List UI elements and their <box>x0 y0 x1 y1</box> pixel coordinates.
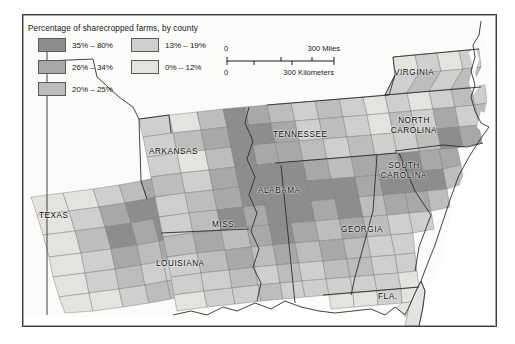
state-label-south-carolina-line2: CAROLINA <box>375 171 433 181</box>
legend-title: Percentage of sharecropped farms, by cou… <box>28 24 233 34</box>
state-label-north-carolina-line1: NORTH <box>385 116 443 126</box>
state-label-south-carolina: SOUTH CAROLINA <box>375 161 433 180</box>
state-label-georgia: GEORGIA <box>341 225 383 235</box>
state-tennessee-counties <box>267 95 397 163</box>
state-label-south-carolina-line1: SOUTH <box>375 161 433 171</box>
scale-bar-km-labels: 0 300 Kilometers <box>224 68 340 78</box>
legend-item-26-34: 26% – 34% <box>38 58 113 76</box>
legend-label-13-19: 13% – 19% <box>165 41 206 50</box>
legend-swatch-13-19 <box>131 38 159 52</box>
legend: Percentage of sharecropped farms, by cou… <box>28 24 233 104</box>
state-label-texas: TEXAS <box>39 211 69 221</box>
legend-item-0-12: 0% – 12% <box>131 58 206 76</box>
legend-swatch-35-80 <box>38 38 66 52</box>
legend-column-1: 35% – 80% 26% – 34% 20% – 25% <box>38 36 113 102</box>
legend-item-20-25: 20% – 25% <box>38 80 113 98</box>
scale-bar-km-zero: 0 <box>224 68 228 77</box>
state-label-florida: FLA. <box>378 292 398 302</box>
state-label-north-carolina-line2: CAROLINA <box>385 126 443 136</box>
legend-swatch-20-25 <box>38 82 66 96</box>
state-label-arkansas: ARKANSAS <box>149 147 198 157</box>
legend-item-35-80: 35% – 80% <box>38 36 113 54</box>
legend-item-13-19: 13% – 19% <box>131 36 206 54</box>
legend-label-35-80: 35% – 80% <box>72 41 113 50</box>
scale-bar-miles-max: 300 Miles <box>308 44 341 53</box>
state-label-alabama: ALABAMA <box>258 186 301 196</box>
state-label-tennessee: TENNESSEE <box>273 130 328 140</box>
legend-label-20-25: 20% – 25% <box>72 85 113 94</box>
legend-column-2: 13% – 19% 0% – 12% <box>131 36 206 80</box>
map-figure: TEXAS ARKANSAS LOUISIANA MISS. ALABAMA T… <box>0 0 515 344</box>
scale-bar-miles-zero: 0 <box>224 44 228 53</box>
scale-bar-miles-labels: 0 300 Miles <box>224 44 340 54</box>
legend-swatch-26-34 <box>38 60 66 74</box>
state-label-louisiana: LOUISIANA <box>156 259 205 269</box>
scale-bar-graphic <box>226 57 336 65</box>
legend-label-0-12: 0% – 12% <box>165 63 201 72</box>
legend-label-26-34: 26% – 34% <box>72 63 113 72</box>
state-label-north-carolina: NORTH CAROLINA <box>385 116 443 135</box>
scale-bar-km-max: 300 Kilometers <box>283 68 334 77</box>
scale-bar: 0 300 Miles 0 300 Kilometers <box>224 44 340 78</box>
state-label-virginia: VIRGINIA <box>394 68 434 78</box>
state-label-mississippi: MISS. <box>212 220 237 230</box>
legend-swatch-0-12 <box>131 60 159 74</box>
